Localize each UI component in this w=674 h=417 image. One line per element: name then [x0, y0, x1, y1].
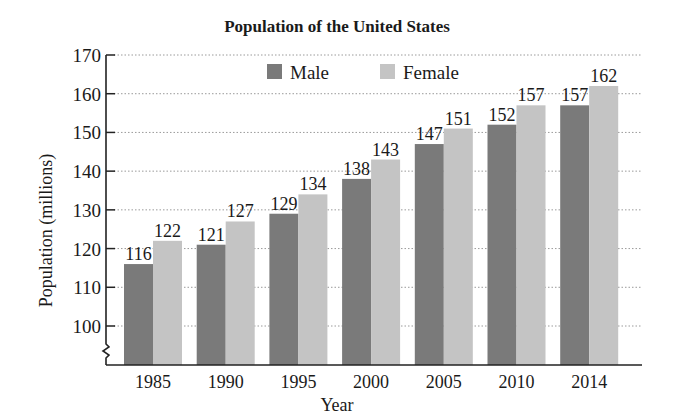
data-label: 121 [198, 225, 225, 245]
bar-male [269, 214, 298, 365]
data-label: 138 [343, 159, 370, 179]
legend-swatch-male [267, 64, 282, 79]
legend-swatch-female [380, 64, 395, 79]
bar-male [342, 179, 371, 365]
y-tick-label: 110 [73, 277, 101, 298]
x-tick-label: 1990 [208, 372, 244, 392]
x-tick-label: 2005 [426, 372, 462, 392]
bar-male [560, 105, 589, 365]
bar-female [298, 194, 327, 365]
data-label: 143 [372, 140, 399, 160]
data-label: 151 [445, 109, 472, 129]
legend-label-male: Male [290, 62, 329, 83]
data-label: 122 [154, 221, 181, 241]
bar-female [226, 221, 255, 365]
y-tick-label: 160 [73, 84, 102, 105]
bar-male [124, 264, 153, 365]
bar-chart: 1001101201301401501601701161221985121127… [0, 0, 674, 417]
bar-male [415, 144, 444, 365]
data-label: 116 [125, 244, 151, 264]
bar-male [488, 125, 517, 365]
legend-label-female: Female [403, 62, 459, 83]
data-label: 157 [518, 85, 545, 105]
x-tick-label: 2000 [353, 372, 389, 392]
x-tick-label: 1995 [280, 372, 316, 392]
y-axis-label: Population (millions) [36, 151, 57, 311]
y-tick-label: 120 [73, 239, 102, 260]
data-label: 129 [270, 194, 297, 214]
y-tick-label: 170 [73, 45, 102, 66]
x-tick-label: 2010 [499, 372, 535, 392]
data-label: 157 [561, 85, 588, 105]
x-tick-label: 1985 [135, 372, 171, 392]
y-tick-label: 130 [73, 200, 102, 221]
y-tick-label: 100 [73, 316, 102, 337]
bar-female [371, 160, 400, 365]
data-label: 162 [590, 66, 617, 86]
bar-female [444, 129, 473, 365]
y-tick-label: 140 [73, 161, 102, 182]
bar-male [197, 245, 226, 365]
x-tick-label: 2014 [571, 372, 607, 392]
bar-female [517, 105, 546, 365]
data-label: 127 [227, 201, 254, 221]
data-label: 152 [489, 105, 516, 125]
data-label: 147 [416, 124, 443, 144]
x-axis-label: Year [0, 395, 674, 416]
data-label: 134 [299, 174, 326, 194]
bar-female [589, 86, 618, 365]
bar-female [153, 241, 182, 365]
y-tick-label: 150 [73, 122, 102, 143]
